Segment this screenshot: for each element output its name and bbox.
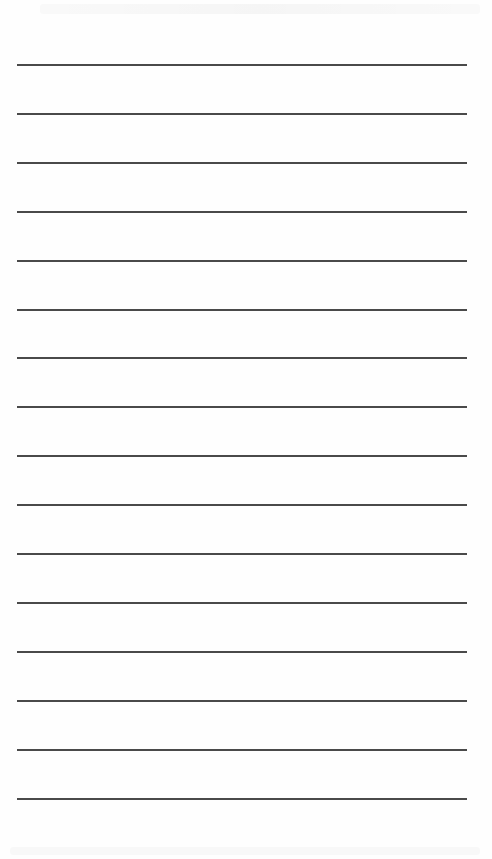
ruled-line (17, 309, 467, 311)
faint-bleed-through-top (40, 4, 480, 14)
ruled-line (17, 260, 467, 262)
ruled-line (17, 700, 467, 702)
ruled-line (17, 553, 467, 555)
ruled-line (17, 357, 467, 359)
ruled-line (17, 455, 467, 457)
ruled-line (17, 798, 467, 800)
ruled-line (17, 602, 467, 604)
ruled-line (17, 64, 467, 66)
ruled-line (17, 162, 467, 164)
ruled-line (17, 504, 467, 506)
ruled-line (17, 651, 467, 653)
ruled-line (17, 749, 467, 751)
ruled-line (17, 406, 467, 408)
ruled-line (17, 211, 467, 213)
lined-paper-page (0, 0, 492, 859)
faint-bleed-through-bottom (10, 847, 480, 855)
ruled-line (17, 113, 467, 115)
